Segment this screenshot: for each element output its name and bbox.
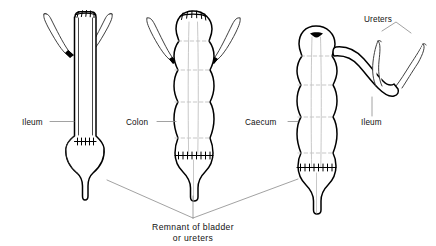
caecum-body <box>297 26 337 214</box>
ureter-tube-right-panel3 <box>396 44 426 88</box>
leader-caption-left <box>107 180 193 218</box>
leader-lines <box>50 22 411 218</box>
label-ileum-right: Ileum <box>361 118 382 127</box>
panel-ileal-conduit <box>44 11 113 201</box>
ureter-tube-right-panel2 <box>211 18 240 63</box>
ileal-segment-body <box>333 47 398 96</box>
diagram-canvas: Ileum Colon Caecum Ureters Ileum Remnant… <box>0 0 436 246</box>
label-ureters: Ureters <box>364 15 392 24</box>
leader-caption-right <box>193 179 298 218</box>
colon-conduit-body <box>174 11 214 201</box>
label-colon: Colon <box>126 118 148 127</box>
anatomical-figure: Ileum Colon Caecum Ureters Ileum Remnant… <box>0 0 436 246</box>
ileal-segment-panel3 <box>333 47 398 96</box>
ureter-tube-left-panel2 <box>147 18 176 63</box>
ureter-tube-left-panel1 <box>44 13 73 57</box>
caption-line-2: or ureters <box>173 233 213 243</box>
label-caecum: Caecum <box>245 118 276 127</box>
caption-line-1: Remnant of bladder <box>152 222 234 232</box>
panel-colonic-conduit <box>147 11 241 201</box>
label-ileum-left: Ileum <box>22 118 43 127</box>
